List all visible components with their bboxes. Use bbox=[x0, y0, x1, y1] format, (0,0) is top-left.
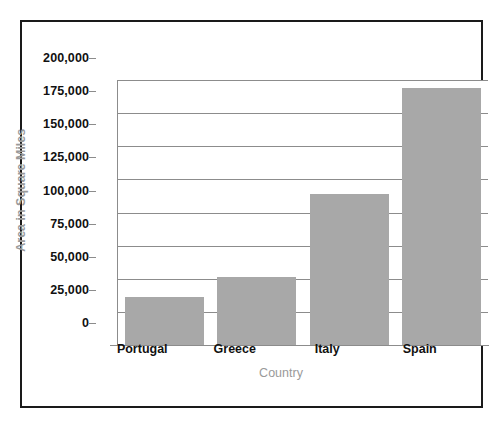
bar-chart-figure: 025,00050,00075,000100,000125,000150,000… bbox=[0, 0, 500, 423]
x-axis-category-label-greece: Greece bbox=[189, 343, 282, 356]
y-axis-tick-mark bbox=[89, 191, 96, 192]
bar-portugal[interactable] bbox=[125, 297, 204, 345]
bar-italy[interactable] bbox=[310, 194, 389, 345]
y-axis-tick-mark bbox=[89, 124, 96, 125]
bar-spain[interactable] bbox=[402, 88, 481, 345]
y-axis-tick-mark bbox=[89, 257, 96, 258]
chart-outer-frame: 025,00050,00075,000100,000125,000150,000… bbox=[20, 20, 483, 408]
x-axis-category-label-italy: Italy bbox=[281, 343, 374, 356]
x-axis-category-label-portugal: Portugal bbox=[96, 343, 189, 356]
x-axis-title: Country bbox=[96, 367, 466, 380]
y-axis-tick-label: 200,000 bbox=[1, 52, 89, 65]
y-axis-tick-mark bbox=[89, 91, 96, 92]
y-axis-tick-mark bbox=[89, 157, 96, 158]
y-axis-tick-mark bbox=[89, 58, 96, 59]
bar-greece[interactable] bbox=[217, 277, 296, 345]
plot-area bbox=[118, 80, 488, 345]
y-axis-title: Area in Square Miles bbox=[15, 105, 28, 275]
y-axis-tick-label: 0 bbox=[1, 317, 89, 330]
y-axis-tick-labels: 025,00050,00075,000100,000125,000150,000… bbox=[22, 22, 109, 423]
y-axis-tick-label: 175,000 bbox=[1, 85, 89, 98]
x-axis-category-label-spain: Spain bbox=[374, 343, 467, 356]
y-axis-tick-mark bbox=[89, 290, 96, 291]
y-axis-tick-mark bbox=[89, 224, 96, 225]
y-axis-tick-mark bbox=[89, 323, 96, 324]
y-axis-tick-label: 25,000 bbox=[1, 284, 89, 297]
gridline bbox=[118, 80, 488, 81]
